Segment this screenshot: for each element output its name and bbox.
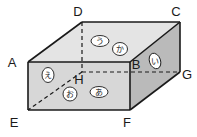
face-tag-u-label: う (96, 37, 104, 46)
face-tag-ka: か (113, 43, 128, 56)
face-tag-i-label: い (151, 57, 159, 66)
face-tag-a: あ (90, 87, 108, 98)
cuboid-diagram: A B C D E F G H う か い (0, 0, 197, 137)
vertex-label-C: C (171, 4, 180, 19)
vertex-label-B: B (132, 57, 141, 72)
vertex-label-E: E (10, 115, 19, 130)
face-tag-a-label: あ (95, 88, 103, 97)
face-tag-e: え (42, 68, 54, 83)
face-tag-u: う (91, 36, 109, 47)
face-tag-o: お (63, 87, 77, 101)
face-tag-ka-label: か (116, 45, 124, 54)
vertex-label-H: H (74, 72, 83, 87)
face-tag-o-label: お (66, 90, 74, 99)
vertex-label-A: A (8, 55, 17, 70)
vertex-label-D: D (73, 4, 82, 19)
vertex-label-G: G (182, 67, 192, 82)
face-tag-e-label: え (44, 71, 52, 80)
vertex-label-F: F (123, 115, 131, 130)
geometry-figure: A B C D E F G H う か い (0, 0, 197, 137)
